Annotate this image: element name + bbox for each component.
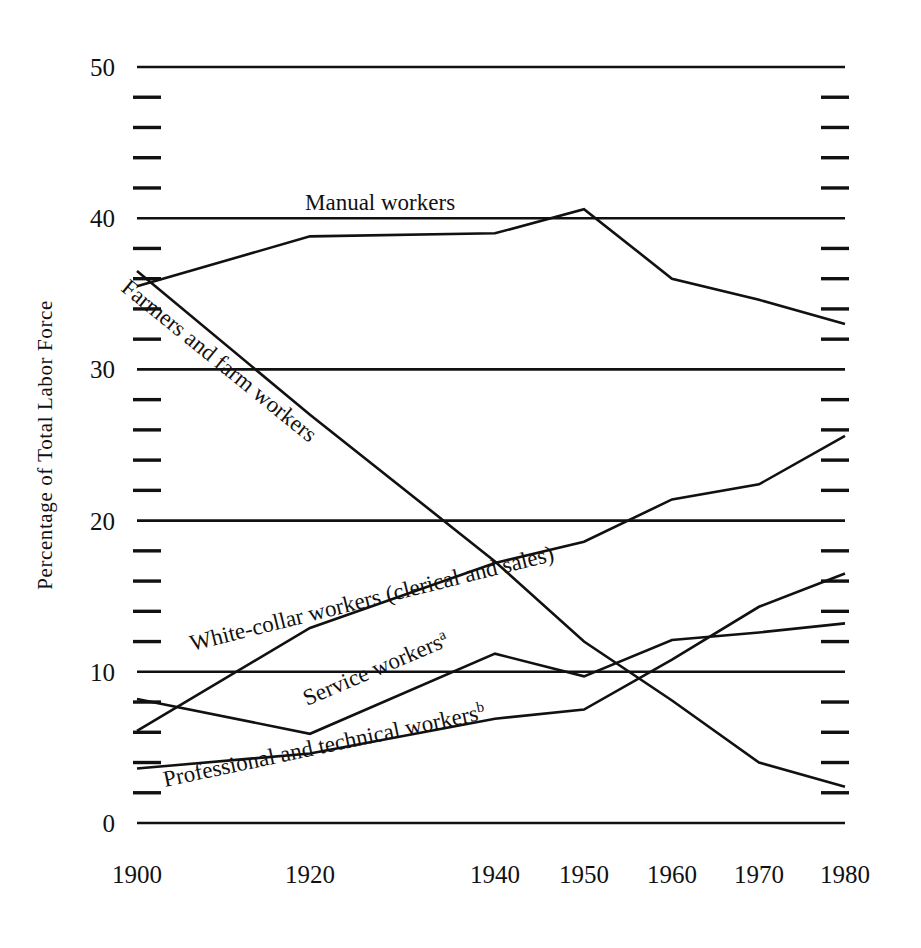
series-label-professional-superscript: b [475, 698, 486, 715]
series-label-service: Service workersa [299, 626, 453, 711]
series-label-service-superscript: a [436, 626, 449, 643]
x-tick-label-1900: 1900 [112, 861, 162, 888]
series-inline-labels: Manual workersFarmers and farm workersWh… [117, 190, 556, 792]
series-label-manual: Manual workers [305, 190, 455, 215]
series-line-farmers-and-farm-workers [137, 271, 845, 787]
y-gridlines [137, 67, 845, 823]
series-line-white-collar-workers-clerical-and-sales [137, 436, 845, 731]
data-series-lines [137, 209, 845, 787]
x-tick-label-1950: 1950 [559, 861, 609, 888]
series-label-farmers-group: Farmers and farm workers [117, 274, 322, 447]
series-label-professional-group: Professional and technical workersb [161, 698, 488, 792]
y-tick-label-0: 0 [103, 810, 116, 837]
y-tick-labels: 01020304050 [90, 54, 115, 837]
series-label-manual-group: Manual workers [305, 190, 455, 215]
series-line-manual-workers [137, 209, 845, 324]
y-tick-label-20: 20 [90, 508, 115, 535]
x-tick-label-1970: 1970 [734, 861, 784, 888]
series-label-professional: Professional and technical workersb [161, 698, 488, 792]
series-label-farmers: Farmers and farm workers [117, 274, 322, 447]
y-tick-label-40: 40 [90, 205, 115, 232]
x-tick-label-1920: 1920 [285, 861, 335, 888]
x-tick-label-1980: 1980 [820, 861, 870, 888]
x-tick-labels: 1900192019401950196019701980 [112, 861, 870, 888]
series-label-service-group: Service workersa [299, 626, 453, 711]
y-axis-title-group: Percentage of Total Labor Force [33, 300, 57, 590]
labor-force-line-chart: Percentage of Total Labor Force 01020304… [0, 0, 921, 948]
y-minor-ticks [133, 97, 849, 793]
y-tick-label-50: 50 [90, 54, 115, 81]
y-axis-title: Percentage of Total Labor Force [33, 300, 57, 590]
chart-figure: Percentage of Total Labor Force 01020304… [0, 0, 921, 948]
series-label-white-group: White-collar workers (clerical and sales… [187, 541, 556, 656]
y-tick-label-30: 30 [90, 356, 115, 383]
y-tick-label-10: 10 [90, 659, 115, 686]
x-tick-label-1960: 1960 [647, 861, 697, 888]
x-tick-label-1940: 1940 [470, 861, 520, 888]
series-label-white: White-collar workers (clerical and sales… [187, 541, 556, 656]
